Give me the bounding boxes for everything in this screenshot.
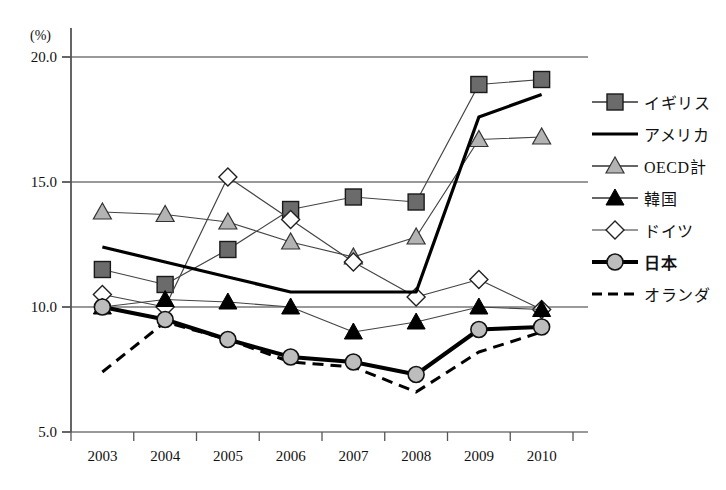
marker-diamond-white [470,271,488,289]
marker-circle-gray [283,349,299,365]
legend-item-5[interactable]: ドイツ [592,214,726,246]
marker-square-filled [408,194,424,210]
legend-item-label: ドイツ [638,218,694,242]
marker-triangle-gray [282,233,300,249]
x-tick-label: 2004 [150,448,181,464]
marker-triangle-gray [156,206,174,222]
marker-circle-gray [345,354,361,370]
legend-item-6[interactable]: 日本 [592,246,726,278]
legend-item-7[interactable]: オランダ [592,278,726,310]
y-tick-label: 20.0 [31,49,57,65]
marker-square-filled [534,72,550,88]
dashed-line-icon [592,283,638,305]
x-tick-label: 2009 [464,448,494,464]
legend-item-label: 日本 [638,250,677,274]
marker-triangle-gray [93,203,111,219]
x-tick-label: 2006 [276,448,307,464]
legend-item-label: オランダ [638,282,710,306]
y-axis-tick-labels: 5.010.015.020.0 [31,49,57,440]
x-tick-label: 2007 [338,448,369,464]
x-axis-tick-labels: 20032004200520062007200820092010 [87,448,556,464]
legend-item-2[interactable]: アメリカ [592,118,726,150]
marker-circle-gray [471,322,487,338]
x-tick-label: 2008 [401,448,431,464]
y-tick-label: 5.0 [38,424,57,440]
marker-circle-gray [408,367,424,383]
x-axis-ticks [71,432,573,441]
legend-item-label: 韓国 [638,186,677,210]
marker-circle-gray [94,299,110,315]
marker-circle-gray [534,319,550,335]
gridlines [71,57,588,432]
marker-circle-gray [220,332,236,348]
legend-item-1[interactable]: イギリス [592,86,726,118]
diamond-white-icon [592,219,638,241]
legend-item-label: イギリス [638,90,710,114]
square-filled-icon [592,91,638,113]
x-tick-label: 2005 [213,448,243,464]
line-chart: 5.010.015.020.0 200320042005200620072008… [0,0,726,490]
marker-square-filled [345,189,361,205]
marker-triangle-black [219,293,237,309]
circle-gray-bold-icon [592,251,638,273]
data-series-layer [93,72,550,393]
chart-legend: イギリスアメリカ OECD計 韓国 ドイツ 日本オランダ [592,86,726,310]
marker-triangle-black [470,298,488,314]
legend-item-3[interactable]: OECD計 [592,150,726,182]
marker-square-filled [94,262,110,278]
marker-triangle-gray [533,128,551,144]
series-2 [102,95,541,293]
marker-triangle-gray [407,228,425,244]
y-tick-label: 10.0 [31,299,57,315]
triangle-black-icon [592,187,638,209]
thick-line-icon [592,123,638,145]
x-tick-label: 2010 [527,448,557,464]
y-tick-label: 15.0 [31,174,57,190]
legend-item-4[interactable]: 韓国 [592,182,726,214]
marker-diamond-white [219,168,237,186]
marker-square-filled [220,242,236,258]
axes [62,28,71,432]
triangle-gray-icon [592,155,638,177]
series-line [102,137,541,257]
marker-square-filled [471,77,487,93]
legend-item-label: OECD計 [638,154,706,178]
legend-item-label: アメリカ [638,122,709,146]
x-tick-label: 2003 [87,448,117,464]
series-line [102,95,541,293]
series-3 [93,128,550,264]
marker-circle-gray [157,312,173,328]
y-axis-unit-label: (%) [30,28,51,44]
